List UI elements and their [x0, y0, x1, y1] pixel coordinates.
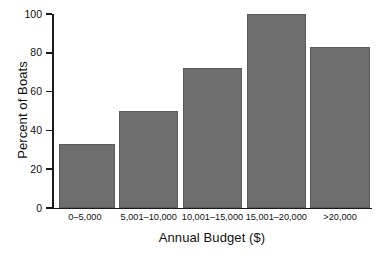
bar: [119, 111, 178, 208]
x-axis-tick-label: >20,000: [300, 212, 380, 223]
y-axis-tick-label: 40: [2, 125, 42, 135]
y-axis-title: Percent of Boats: [14, 10, 32, 210]
y-axis-tick: [46, 91, 52, 93]
bar-chart: Percent of Boats 020406080100 0–5,0005,0…: [0, 0, 390, 258]
x-axis-title: Annual Budget ($): [52, 230, 372, 245]
y-axis-tick-label: 20: [2, 164, 42, 174]
y-axis-tick-label: 0: [2, 203, 42, 213]
y-axis-tick: [46, 13, 52, 15]
y-axis-tick: [46, 130, 52, 132]
bar: [310, 47, 369, 208]
y-axis-tick: [46, 207, 52, 209]
y-axis-tick-label: 60: [2, 86, 42, 96]
bar: [247, 14, 306, 208]
plot-area: [53, 14, 372, 208]
y-axis-tick-label: 80: [2, 47, 42, 57]
y-axis-tick: [46, 52, 52, 54]
bar: [183, 68, 242, 208]
y-axis-tick-label: 100: [2, 9, 42, 19]
y-axis-tick: [46, 168, 52, 170]
bar: [59, 144, 115, 208]
